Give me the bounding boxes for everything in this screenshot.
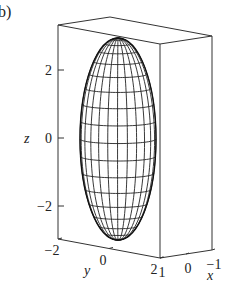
meridian-line [99, 38, 118, 240]
y-tick-label: −2 [45, 243, 60, 258]
box-edge-top-back [110, 17, 212, 36]
z-tick-label: −2 [37, 199, 52, 214]
z-tick-label: 2 [45, 63, 52, 78]
y-tick-label: 0 [100, 253, 107, 268]
meridian-line [85, 38, 118, 240]
y-tick [109, 248, 113, 249]
x-tick-label: 1 [159, 265, 166, 280]
meridian-line [118, 38, 127, 240]
panel-label: b) [0, 3, 11, 21]
z-tick-label: 0 [45, 131, 52, 146]
x-tick-label: 0 [185, 261, 192, 276]
x-axis-label: x [206, 268, 214, 283]
y-axis-label: y [82, 263, 91, 278]
ellipsoid-plot: b) 20−2z−202y10−1x [0, 0, 232, 288]
y-tick [58, 238, 62, 239]
y-tick-label: 2 [151, 262, 158, 277]
z-axis-label: z [23, 131, 30, 146]
axes: 20−2z−202y10−1x [23, 63, 221, 283]
box-edge-top-right [160, 36, 212, 44]
meridian-line [108, 38, 118, 240]
ellipsoid-surface [80, 38, 156, 240]
box-edge-top-left [58, 17, 110, 25]
